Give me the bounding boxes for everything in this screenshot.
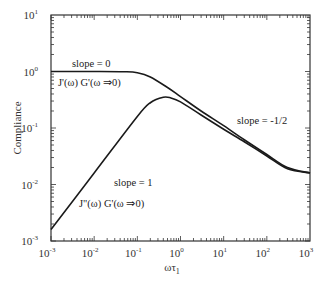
annotation-jprime: J'(ω) G'(ω ⇒0) <box>58 77 121 89</box>
x-tick-labels: 10-310-210-1100101102103 <box>39 246 314 259</box>
annotation-slope-0: slope = 0 <box>72 58 111 69</box>
annotation-jdprime: J"(ω) G'(ω ⇒0) <box>79 198 145 210</box>
y-tick-label: 101 <box>24 8 39 21</box>
x-tick-label: 100 <box>169 246 184 259</box>
x-tick-label: 10-1 <box>125 246 142 259</box>
y-tick-label: 10-2 <box>21 178 38 191</box>
x-tick-label: 102 <box>256 246 271 259</box>
x-tick-label: 10-2 <box>82 246 99 259</box>
x-tick-label: 10-3 <box>39 246 56 259</box>
y-tick-labels: 10110010-110-210-3 <box>21 8 38 247</box>
y-tick-label: 10-3 <box>21 234 38 247</box>
compliance-chart: 10-310-210-1100101102103 10110010-110-21… <box>0 0 327 286</box>
y-tick-label: 100 <box>24 65 39 78</box>
x-axis-title: ωτ1 <box>164 261 180 276</box>
x-tick-label: 103 <box>299 246 314 259</box>
x-tick-label: 101 <box>212 246 227 259</box>
annotation-slope-1: slope = 1 <box>114 177 153 188</box>
annotation-slope-half: slope = -1/2 <box>237 115 287 126</box>
y-tick-label: 10-1 <box>21 121 38 134</box>
y-axis-title: Compliance <box>11 101 23 154</box>
